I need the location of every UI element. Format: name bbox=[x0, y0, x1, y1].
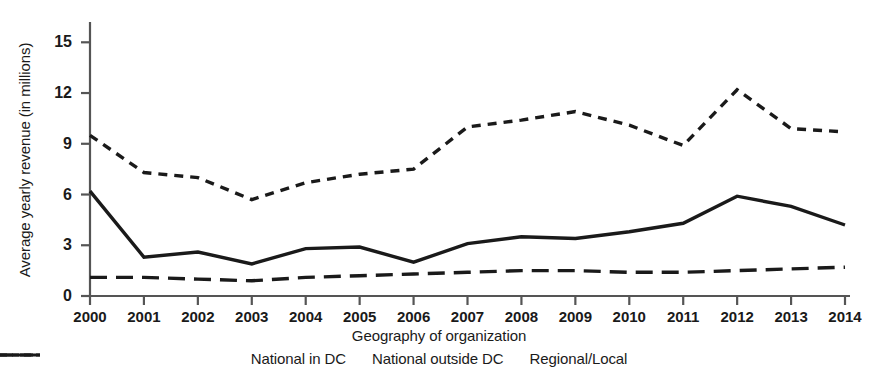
x-axis-title: Geography of organization bbox=[0, 327, 878, 344]
legend-label: National in DC bbox=[251, 350, 346, 367]
legend-label: Regional/Local bbox=[529, 350, 627, 367]
legend-item-national-in-dc: National in DC bbox=[251, 350, 346, 367]
legend-item-national-outside-dc: National outside DC bbox=[372, 350, 504, 367]
line-chart: Average yearly revenue (in millions) 036… bbox=[0, 0, 878, 387]
series-line-national-in-dc bbox=[90, 90, 845, 200]
series-line-regional-local bbox=[90, 267, 845, 281]
legend-item-regional-local: Regional/Local bbox=[529, 350, 627, 367]
series-line-national-outside-dc bbox=[90, 191, 845, 264]
chart-legend: National in DC National outside DC Regio… bbox=[0, 350, 878, 367]
legend-swatch-long-dashed-icon bbox=[0, 350, 40, 360]
legend-label: National outside DC bbox=[372, 350, 504, 367]
